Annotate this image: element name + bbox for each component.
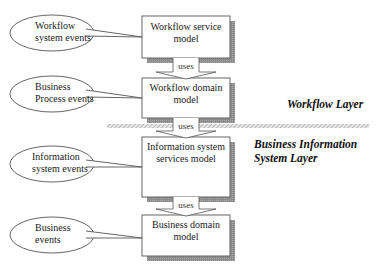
workflow-domain-model-box: Workflow domainmodel — [142, 78, 235, 123]
workflow-system-events-callout: Workflowsystem events — [10, 15, 142, 51]
workflow-layer-label: Workflow Layer — [287, 98, 364, 111]
uses-label: uses — [178, 121, 194, 131]
business-process-events-callout: BusinessProcess events — [10, 76, 142, 112]
business-information-system-layer-label: Business Information System Layer — [253, 138, 360, 165]
information-system-services-model-box: Information systemservices model — [142, 137, 235, 202]
box-label: Information systemservices model — [147, 141, 225, 164]
business-domain-model-box: Business domainmodel — [142, 215, 235, 261]
layer-separator — [107, 124, 369, 128]
event-label: Informationsystem events — [32, 151, 88, 174]
layered-architecture-diagram: Workflow servicemodelWorkflow domainmode… — [0, 0, 381, 271]
information-system-events-callout: Informationsystem events — [10, 146, 142, 182]
uses-label: uses — [178, 61, 194, 71]
workflow-service-model-box: Workflow servicemodel — [142, 16, 235, 63]
uses-label: uses — [178, 200, 194, 210]
business-events-callout: Businessevents — [10, 217, 142, 253]
